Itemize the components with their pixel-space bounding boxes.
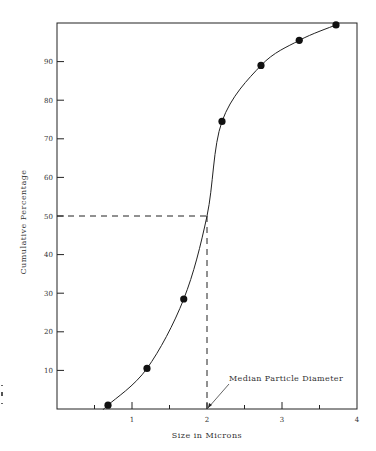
x-tick-label: 2: [205, 416, 209, 424]
median-annotation-label: Median Particle Diameter: [229, 374, 343, 383]
y-axis-title: Cumulative Percentage: [19, 169, 28, 274]
data-point-marker: [257, 62, 264, 69]
x-tick-label: 3: [280, 416, 284, 424]
y-tick-label: 60: [44, 174, 53, 182]
scan-mark: [1, 392, 3, 396]
cumulative-percentage-chart: 102030405060708090 1234 Median Particle …: [0, 0, 376, 451]
data-point-marker: [296, 37, 303, 44]
data-point-marker: [143, 365, 150, 372]
x-tick-label: 4: [355, 416, 360, 424]
x-tick-label: 1: [130, 416, 134, 424]
annotation-arrow-line: [208, 384, 229, 408]
data-point-marker: [180, 295, 187, 302]
y-tick-label: 10: [44, 367, 53, 375]
y-tick-label: 20: [44, 328, 53, 336]
y-tick-label: 40: [44, 251, 53, 259]
y-tick-label: 90: [44, 58, 53, 66]
y-tick-label: 80: [44, 97, 53, 105]
data-point-marker: [218, 118, 225, 125]
data-point-marker: [104, 402, 111, 409]
scan-mark: [1, 385, 3, 386]
scan-mark: [1, 403, 3, 404]
data-points: [104, 21, 339, 408]
cumulative-curve: [103, 25, 336, 409]
data-point-marker: [332, 21, 339, 28]
x-axis: 1234: [95, 402, 360, 424]
x-axis-title: Size in Microns: [172, 431, 242, 440]
y-tick-label: 70: [44, 135, 53, 143]
y-tick-label: 30: [44, 290, 53, 298]
y-tick-label: 50: [44, 213, 53, 221]
